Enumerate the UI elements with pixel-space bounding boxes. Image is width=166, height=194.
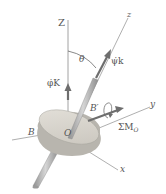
phi-dot-K-label: φ̇K <box>47 78 60 88</box>
moment-label: ΣMO <box>118 122 139 133</box>
phi-dot-arrow <box>65 83 72 100</box>
y-axis-label: y <box>149 99 156 109</box>
B-label: B <box>27 127 35 137</box>
theta-label: θ <box>79 54 85 64</box>
origin-label: O <box>64 128 72 138</box>
psi-dot-arrow <box>96 49 111 78</box>
z-axis-label: z <box>126 10 132 19</box>
gyroscope-diagram: Z z θ ψ̇k φ̇K B′ y B O ΣMO x <box>0 0 166 194</box>
x-axis-label: x <box>120 164 125 174</box>
lower-shaft <box>33 150 59 189</box>
B-prime-label: B′ <box>89 103 99 113</box>
psi-dot-k-label: ψ̇k <box>111 56 124 66</box>
Z-axis-label: Z <box>58 17 65 28</box>
